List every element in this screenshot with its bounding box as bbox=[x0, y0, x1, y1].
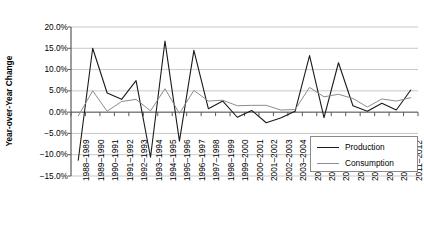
chart-container: Year-over-Year Change 20.0%15.0%10.0%5.0… bbox=[0, 0, 424, 252]
plot-area bbox=[0, 0, 424, 252]
legend: ProductionConsumption bbox=[310, 136, 418, 172]
legend-swatch-icon bbox=[317, 147, 339, 148]
legend-item-production[interactable]: Production bbox=[317, 141, 385, 154]
axis-lines bbox=[68, 27, 71, 176]
legend-swatch-icon bbox=[317, 163, 339, 164]
legend-label: Consumption bbox=[345, 159, 394, 167]
legend-item-consumption[interactable]: Consumption bbox=[317, 157, 394, 170]
legend-label: Production bbox=[345, 143, 385, 151]
